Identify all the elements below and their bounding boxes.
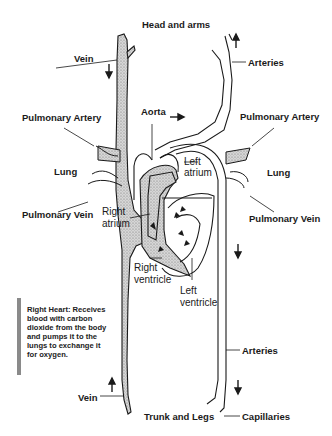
label-left-atrium-line2: atrium [184,167,212,178]
label-pulmonary-vein-right: Pulmonary Vein [249,213,320,224]
heart [140,165,214,276]
label-vein-top: Vein [74,53,94,64]
arteries-bottom-down-arrow [235,380,241,394]
label-left-atrium-line1: Left [184,156,201,167]
vein-top-down-arrow [106,64,112,78]
right-heart-note: Right Heart: Receives blood with carbon … [27,305,107,359]
label-capillaries: Capillaries [242,411,290,422]
aorta-right-arrow [170,114,184,120]
vein-bottom-up-arrow [109,378,115,392]
label-pulmonary-artery-left: Pulmonary Artery [22,112,101,123]
label-lung-right: Lung [267,167,290,178]
label-arteries-bottom: Arteries [242,345,278,356]
label-arteries-top: Arteries [248,57,284,68]
label-pulmonary-vein-left: Pulmonary Vein [22,209,93,220]
label-head-and-arms: Head and arms [142,19,210,30]
label-pulmonary-artery-right: Pulmonary Artery [240,111,319,122]
note-accent-bar [17,298,21,375]
label-right-ventricle-line2: ventricle [134,274,171,285]
label-lung-left: Lung [54,166,77,177]
circulatory-diagram: Head and arms Vein Arteries Aorta Pulmon… [0,0,332,436]
label-trunk-and-legs: Trunk and Legs [144,411,214,422]
label-right-atrium-line1: Right [102,206,125,217]
label-right-ventricle-line1: Right [134,262,157,273]
arteries-top-up-arrow [233,34,239,48]
arteries-mid-down-arrow [235,244,241,258]
label-vein-bottom: Vein [78,392,98,403]
label-left-ventricle-line1: Left [180,285,197,296]
label-aorta: Aorta [141,106,166,117]
label-left-ventricle-line2: ventricle [180,297,217,308]
label-right-atrium-line2: atrium [102,218,130,229]
arteries-upper [155,34,232,158]
